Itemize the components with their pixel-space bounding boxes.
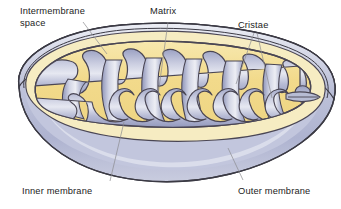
label-intermembrane-space-line2: space: [20, 18, 46, 28]
label-intermembrane-space-line1: Intermembrane: [20, 6, 85, 16]
mitochondrion-body: [19, 23, 336, 181]
label-cristae: Cristae: [238, 20, 269, 30]
label-inner-membrane: Inner membrane: [22, 186, 92, 196]
label-outer-membrane: Outer membrane: [238, 186, 310, 196]
mitochondrion-diagram: Intermembrane space Matrix Cristae Inner…: [0, 0, 341, 209]
label-matrix: Matrix: [150, 6, 176, 16]
figure-canvas: Intermembrane space Matrix Cristae Inner…: [0, 0, 341, 209]
matrix-pockets: [86, 56, 106, 83]
